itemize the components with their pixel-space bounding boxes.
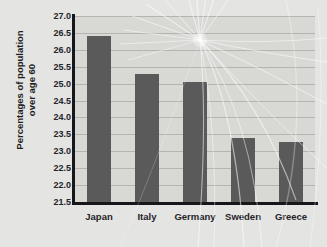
bar — [231, 138, 255, 202]
plot-frame — [75, 16, 315, 202]
y-axis-tick-label: 22.5 — [41, 164, 71, 173]
bar-chart: Percentages of population over age 60 21… — [0, 0, 327, 247]
x-axis-tick-label: Sweden — [219, 211, 267, 222]
y-axis-title: Percentages of population over age 60 — [14, 15, 38, 165]
y-axis-tick-label: 22.0 — [41, 181, 71, 190]
y-axis-tick-label: 23.0 — [41, 147, 71, 156]
x-axis-tick-label: Germany — [171, 211, 219, 222]
plot-area — [75, 16, 315, 202]
y-axis-tick-label: 21.5 — [41, 198, 71, 207]
gridline — [75, 33, 315, 34]
y-axis-title-line-2: over age 60 — [26, 15, 38, 165]
x-axis-tick-label: Italy — [123, 211, 171, 222]
y-axis-tick-label: 24.5 — [41, 97, 71, 106]
y-axis-tick-label: 24.0 — [41, 113, 71, 122]
y-axis-title-line-1: Percentages of population — [14, 15, 26, 165]
y-axis-tick-label: 26.5 — [41, 29, 71, 38]
x-axis-tick-label: Japan — [75, 211, 123, 222]
bar — [87, 36, 111, 202]
gridline — [75, 16, 315, 17]
y-axis-tick-labels: 21.522.022.523.023.524.024.525.025.526.0… — [38, 16, 71, 202]
bar — [135, 74, 159, 203]
x-axis-tick-labels: JapanItalyGermanySwedenGreece — [75, 206, 315, 222]
y-axis-tick-label: 25.0 — [41, 80, 71, 89]
gridline — [75, 67, 315, 68]
x-axis-line — [72, 202, 318, 205]
y-axis-tick-label: 25.5 — [41, 63, 71, 72]
y-axis-tick-label: 23.5 — [41, 130, 71, 139]
bar — [279, 142, 303, 202]
gridline — [75, 50, 315, 51]
bar — [183, 82, 207, 202]
y-axis-tick-label: 26.0 — [41, 46, 71, 55]
y-axis-line — [72, 14, 75, 204]
y-axis-tick-label: 27.0 — [41, 12, 71, 21]
x-axis-tick-label: Greece — [267, 211, 315, 222]
